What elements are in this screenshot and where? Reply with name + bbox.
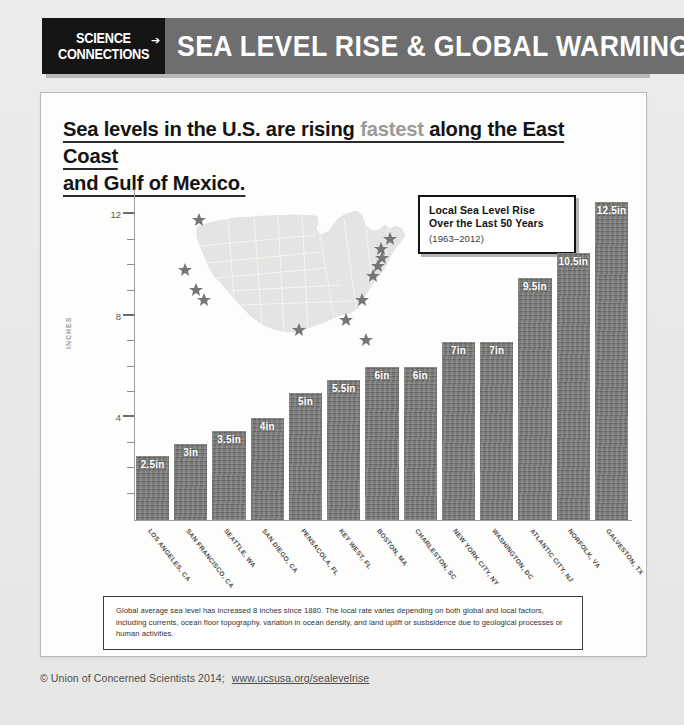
x-axis-label-cell: SAN FRANCISCO, CA xyxy=(174,525,207,581)
copyright-text: © Union of Concerned Scientists 2014; xyxy=(40,672,225,684)
x-axis-labels: LOS ANGELES, CASAN FRANCISCO, CASEATTLE,… xyxy=(136,525,628,581)
bar[interactable]: 2.5in xyxy=(136,456,169,520)
header-banner: SCIENCE CONNECTIONS ➔ SEA LEVEL RISE & G… xyxy=(42,18,646,74)
y-axis-tick-label: 4 xyxy=(116,412,121,423)
x-axis-label-cell: WASHINGTON, DC xyxy=(480,525,513,581)
content-card: Sea levels in the U.S. are rising fastes… xyxy=(40,92,647,657)
x-axis-label-cell: SAN DIEGO, CA xyxy=(251,525,284,581)
brand-line-2: CONNECTIONS xyxy=(58,46,149,62)
bar-value-label: 5.5in xyxy=(327,383,360,394)
x-axis-label-cell: BOSTON, MA xyxy=(365,525,398,581)
y-axis-label: INCHES xyxy=(65,317,72,349)
banner-title-bar: SEA LEVEL RISE & GLOBAL WARMING xyxy=(165,18,684,74)
y-axis-tick-minor xyxy=(127,493,134,494)
bar[interactable]: 7in xyxy=(442,342,475,520)
bar-value-label: 6in xyxy=(404,370,437,381)
bar[interactable]: 10.5in xyxy=(557,253,590,520)
y-axis-tick-minor xyxy=(127,391,134,392)
y-axis-tick-minor xyxy=(127,290,134,291)
footnote-text: Global average sea level has increased 8… xyxy=(116,605,572,640)
bar[interactable]: 5.5in xyxy=(327,380,360,520)
bar[interactable]: 6in xyxy=(365,367,398,520)
x-axis-label-cell: PENSACOLA, FL xyxy=(289,525,322,581)
arrow-right-icon: ➔ xyxy=(151,35,160,46)
y-axis-line xyxy=(134,189,135,521)
x-axis-label-cell: GALVESTON, TX xyxy=(595,525,628,581)
plot-area: 2.5in3in3.5in4in5in5.5in6in6in7in7in9.5i… xyxy=(136,189,628,521)
y-axis-tick-major xyxy=(123,314,134,316)
y-axis-tick-major xyxy=(123,212,134,214)
footnote-box: Global average sea level has increased 8… xyxy=(103,596,583,650)
page-title: SEA LEVEL RISE & GLOBAL WARMING xyxy=(177,30,684,63)
x-axis-label-cell: SEATTLE, WA xyxy=(212,525,245,581)
bar-value-label: 5in xyxy=(289,396,322,407)
bar-chart: INCHES 4812 2.5in3in3.5in4in5in5.5in6in6… xyxy=(63,181,628,581)
y-axis-tick-minor xyxy=(127,340,134,341)
bar-value-label: 2.5in xyxy=(136,459,169,470)
headline-emphasis: fastest xyxy=(360,117,424,140)
x-axis-label-cell: NORFOLK, VA xyxy=(557,525,590,581)
y-axis: 4812 xyxy=(99,189,135,519)
y-axis-tick-minor xyxy=(127,239,134,240)
credit-line: © Union of Concerned Scientists 2014; ww… xyxy=(40,672,647,684)
y-axis-tick-major xyxy=(123,415,134,417)
headline-part-1: Sea levels in the U.S. are rising xyxy=(63,117,360,140)
y-axis-tick-minor xyxy=(127,366,134,367)
infographic-page: SCIENCE CONNECTIONS ➔ SEA LEVEL RISE & G… xyxy=(0,0,684,725)
bar[interactable]: 12.5in xyxy=(595,202,628,520)
brand-badge: SCIENCE CONNECTIONS ➔ xyxy=(42,18,165,74)
y-axis-tick-label: 8 xyxy=(116,310,121,321)
brand-line-1: SCIENCE xyxy=(76,30,131,46)
source-url-link[interactable]: www.ucsusa.org/sealevelrise xyxy=(232,672,370,684)
bar-value-label: 3.5in xyxy=(212,434,245,445)
x-axis-label-cell: ATLANTIC CITY, NJ xyxy=(518,525,551,581)
x-axis-label-cell: LOS ANGELES, CA xyxy=(136,525,169,581)
y-axis-tick-minor xyxy=(127,442,134,443)
bar[interactable]: 3.5in xyxy=(212,431,245,520)
bar[interactable]: 9.5in xyxy=(518,278,551,520)
x-axis-label-cell: NEW YORK CITY, NY xyxy=(442,525,475,581)
bar[interactable]: 3in xyxy=(174,444,207,520)
bar-value-label: 4in xyxy=(251,421,284,432)
bar-value-label: 6in xyxy=(365,370,398,381)
bar-value-label: 10.5in xyxy=(557,256,590,267)
y-axis-tick-minor xyxy=(127,467,134,468)
bar-value-label: 9.5in xyxy=(518,281,551,292)
bar-value-label: 12.5in xyxy=(595,205,628,216)
bar[interactable]: 5in xyxy=(289,393,322,520)
bar-series: 2.5in3in3.5in4in5in5.5in6in6in7in7in9.5i… xyxy=(136,189,628,520)
bar[interactable]: 4in xyxy=(251,418,284,520)
y-axis-tick-minor xyxy=(127,264,134,265)
bar-value-label: 7in xyxy=(442,345,475,356)
bar-value-label: 3in xyxy=(174,447,207,458)
bar-value-label: 7in xyxy=(480,345,513,356)
x-axis-label-cell: CHARLESTON, SC xyxy=(404,525,437,581)
bar[interactable]: 7in xyxy=(480,342,513,520)
bar[interactable]: 6in xyxy=(404,367,437,520)
y-axis-tick-label: 12 xyxy=(110,209,121,220)
x-axis-line xyxy=(135,520,632,521)
x-axis-tick-label: GALVESTON, TX xyxy=(605,527,645,576)
x-axis-label-cell: KEY WEST, FL xyxy=(327,525,360,581)
